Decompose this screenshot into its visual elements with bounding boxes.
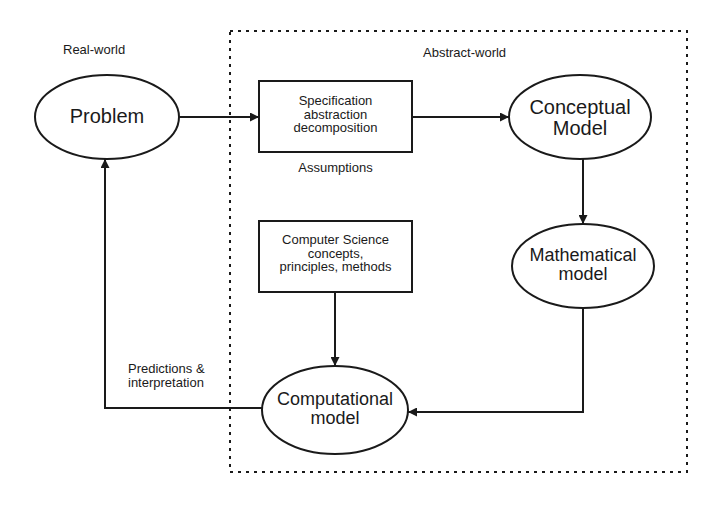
cs-concepts-label: Computer Science concepts, principles, m… — [259, 233, 412, 274]
mathematical-model-label: Mathematical model — [512, 246, 654, 284]
abstract-world-label: Abstract-world — [423, 46, 506, 60]
conceptual-line-2: Model — [509, 118, 651, 139]
predictions-line-2: interpretation — [128, 376, 205, 390]
cs-line-1: Computer Science — [259, 233, 412, 247]
cs-line-3: principles, methods — [259, 260, 412, 274]
edge-math-to-computational — [408, 308, 583, 412]
assumptions-label: Assumptions — [259, 161, 412, 175]
computational-model-label: Computational model — [262, 390, 408, 428]
problem-label: Problem — [35, 106, 179, 127]
mathematical-line-1: Mathematical — [512, 246, 654, 265]
spec-line-2: abstraction — [259, 108, 412, 122]
spec-line-3: decomposition — [259, 121, 412, 135]
spec-line-1: Specification — [259, 94, 412, 108]
specification-label: Specification abstraction decomposition — [259, 94, 412, 135]
computational-line-1: Computational — [262, 390, 408, 409]
conceptual-model-label: Conceptual Model — [509, 97, 651, 139]
conceptual-line-1: Conceptual — [509, 97, 651, 118]
predictions-label: Predictions & interpretation — [128, 362, 205, 389]
cs-line-2: concepts, — [259, 247, 412, 261]
mathematical-line-2: model — [512, 265, 654, 284]
computational-line-2: model — [262, 409, 408, 428]
real-world-label: Real-world — [63, 43, 125, 57]
predictions-line-1: Predictions & — [128, 362, 205, 376]
